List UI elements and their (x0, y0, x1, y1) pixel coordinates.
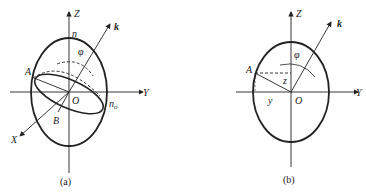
phi-label: φ (294, 49, 300, 60)
caption-a: (a) (60, 176, 71, 188)
point-a-label: A (24, 66, 32, 77)
y-label: Y (356, 87, 363, 98)
phi-arc (57, 62, 93, 76)
caption-b: (b) (283, 174, 295, 186)
origin-label: O (295, 95, 302, 106)
y-label: Y (143, 87, 150, 98)
z-label: Z (74, 8, 80, 19)
panel-a: Z k n φ A Y O no B X (a) (10, 8, 150, 188)
n-label: n (72, 28, 77, 39)
x-label: X (10, 134, 18, 145)
point-b-label: B (53, 115, 59, 126)
n-o-label: no (109, 98, 118, 111)
y-coord-label: y (267, 95, 273, 106)
k-label: k (114, 21, 119, 32)
k-label: k (337, 18, 342, 29)
x-axis (20, 92, 69, 136)
origin-label: O (72, 95, 79, 106)
panel-b: Z k φ A z Y y O (b) (236, 8, 363, 186)
index-ellipsoid-figure: Z k n φ A Y O no B X (a) Z k φ A z Y y O… (0, 0, 366, 196)
z-coord-label: z (282, 75, 287, 86)
point-a-label: A (245, 64, 253, 75)
phi-label: φ (78, 46, 84, 57)
z-label: Z (296, 8, 302, 19)
